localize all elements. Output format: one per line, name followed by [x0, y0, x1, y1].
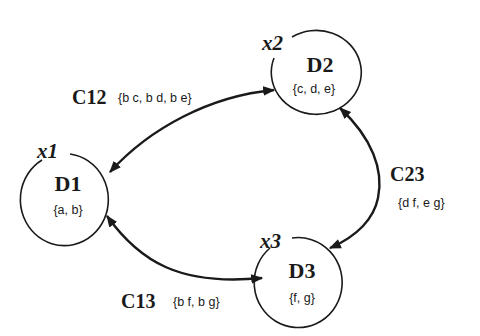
edge-c13-tuples: {b f, b g}: [173, 295, 220, 309]
node-x2-variable: x2: [261, 31, 284, 55]
edge-c13-line: [107, 216, 262, 280]
node-x3-domain-label: D3: [289, 258, 316, 283]
edge-c12: C12 {b c, b d, b e}: [72, 86, 274, 172]
edge-c23-tuples: {d f, e g}: [398, 196, 445, 210]
edge-c12-tuples: {b c, b d, b e}: [118, 91, 192, 105]
node-x3-values: {f, g}: [289, 291, 315, 305]
edge-c13-name: C13: [121, 290, 155, 312]
node-x3-variable: x3: [259, 229, 281, 253]
edge-c23: C23 {d f, e g}: [330, 108, 445, 248]
node-x1-circle: [20, 154, 108, 246]
node-x1-values: {a, b}: [53, 203, 82, 217]
node-x2: x2 D2 {c, d, e}: [261, 30, 361, 114]
node-x2-domain-label: D2: [307, 52, 334, 77]
node-x2-values: {c, d, e}: [293, 82, 335, 96]
constraint-network-diagram: C12 {b c, b d, b e} C23 {d f, e g} C13 {…: [0, 0, 480, 336]
edge-c23-line: [330, 108, 379, 248]
edge-c13: C13 {b f, b g}: [107, 216, 262, 312]
edge-c23-name: C23: [390, 163, 424, 185]
edge-c12-name: C12: [72, 86, 106, 108]
node-x1-variable: x1: [36, 139, 58, 163]
node-x3: x3 D3 {f, g}: [254, 229, 342, 328]
node-x1-domain-label: D1: [55, 171, 82, 196]
node-x1: x1 D1 {a, b}: [20, 139, 108, 246]
